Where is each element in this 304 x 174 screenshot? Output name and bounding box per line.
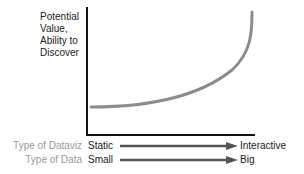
data-to-label: Big bbox=[240, 154, 254, 166]
dataviz-to-label: Interactive bbox=[240, 140, 286, 152]
arrow-dataviz bbox=[120, 142, 238, 150]
data-category-label: Type of Data bbox=[0, 154, 82, 166]
value-curve bbox=[91, 12, 252, 107]
dataviz-from-label: Static bbox=[88, 140, 113, 152]
dataviz-category-label: Type of Dataviz bbox=[0, 140, 82, 152]
arrow-data bbox=[120, 156, 238, 164]
data-from-label: Small bbox=[88, 154, 113, 166]
